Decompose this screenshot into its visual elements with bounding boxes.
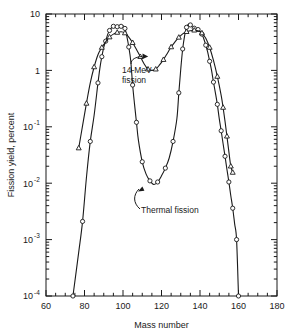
marker-triangle bbox=[215, 74, 220, 78]
marker-circle bbox=[80, 219, 84, 223]
annotation-14mev-line2: fission bbox=[122, 75, 146, 85]
marker-circle bbox=[127, 45, 131, 49]
x-tick-label: 160 bbox=[231, 301, 246, 311]
marker-circle bbox=[181, 47, 185, 51]
marker-triangle bbox=[184, 29, 189, 33]
marker-circle bbox=[107, 28, 111, 32]
marker-triangle bbox=[115, 30, 120, 34]
marker-circle bbox=[177, 91, 181, 95]
marker-circle bbox=[227, 180, 231, 184]
fission-yield-chart: 608010012014016018010110-110-210-310-4Ma… bbox=[0, 0, 292, 335]
x-axis-title: Mass number bbox=[134, 320, 189, 330]
y-tick-label: 1 bbox=[35, 66, 40, 76]
x-tick-label: 100 bbox=[115, 301, 130, 311]
annotation-14mev-line1: 14-MeV bbox=[122, 65, 152, 75]
marker-circle bbox=[88, 139, 92, 143]
annotation-thermal-leader bbox=[135, 189, 140, 209]
x-tick-label: 120 bbox=[154, 301, 169, 311]
marker-circle bbox=[71, 294, 75, 298]
marker-circle bbox=[223, 154, 227, 158]
marker-circle bbox=[171, 139, 175, 143]
marker-circle bbox=[231, 206, 235, 210]
marker-circle bbox=[208, 59, 212, 63]
marker-triangle bbox=[221, 105, 226, 109]
marker-circle bbox=[219, 129, 223, 133]
marker-circle bbox=[148, 179, 152, 183]
y-tick-label: 10 bbox=[30, 9, 40, 19]
marker-circle bbox=[100, 55, 104, 59]
marker-circle bbox=[211, 80, 215, 84]
marker-triangle bbox=[224, 134, 229, 138]
marker-circle bbox=[188, 23, 192, 27]
marker-circle bbox=[96, 81, 100, 85]
marker-circle bbox=[156, 180, 160, 184]
y-tick-exponent: -1 bbox=[34, 119, 40, 126]
marker-triangle bbox=[122, 30, 127, 34]
x-tick-label: 140 bbox=[192, 301, 207, 311]
marker-circle bbox=[215, 102, 219, 106]
y-tick-label: 10 bbox=[23, 122, 33, 132]
x-tick-label: 180 bbox=[269, 301, 284, 311]
marker-triangle bbox=[228, 164, 233, 168]
fission-yield-figure: 608010012014016018010110-110-210-310-4Ma… bbox=[0, 0, 292, 335]
marker-triangle bbox=[84, 101, 89, 105]
annotation-thermal: Thermal fission bbox=[141, 205, 199, 215]
y-tick-label: 10 bbox=[23, 235, 33, 245]
marker-circle bbox=[204, 43, 208, 47]
marker-circle bbox=[236, 294, 240, 298]
y-tick-exponent: -3 bbox=[34, 232, 40, 239]
y-axis-title: Fission yield, percent bbox=[6, 112, 16, 197]
y-tick-exponent: -4 bbox=[34, 289, 40, 296]
annotation-14mev-arrowhead bbox=[142, 54, 148, 60]
y-tick-label: 10 bbox=[23, 179, 33, 189]
marker-triangle bbox=[76, 145, 81, 149]
series-line-fourteen-mev bbox=[79, 30, 233, 172]
x-tick-label: 80 bbox=[79, 301, 89, 311]
marker-circle bbox=[134, 120, 138, 124]
y-tick-label: 10 bbox=[23, 291, 33, 301]
x-tick-label: 60 bbox=[41, 301, 51, 311]
marker-circle bbox=[234, 238, 238, 242]
y-tick-exponent: -2 bbox=[34, 176, 40, 183]
marker-circle bbox=[140, 160, 144, 164]
marker-circle bbox=[163, 166, 167, 170]
series-line-thermal bbox=[73, 24, 239, 296]
marker-triangle bbox=[92, 64, 97, 68]
plot-frame bbox=[46, 14, 277, 296]
marker-triangle bbox=[230, 170, 235, 174]
